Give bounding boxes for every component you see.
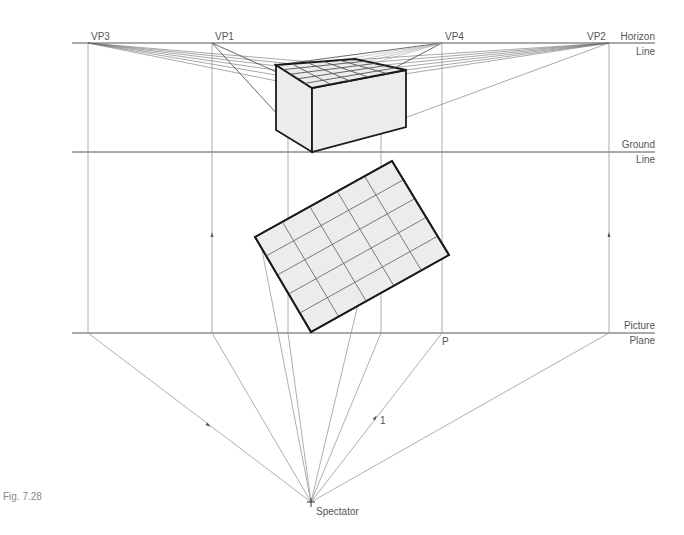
perspective-diagram: VP3 VP1 VP4 VP2 Horizon Line Ground Line…	[0, 0, 684, 535]
plan-view-rectangle	[255, 161, 449, 332]
marker-1-label: 1	[380, 415, 386, 426]
ground-line-label-2: Line	[636, 154, 655, 165]
sight-line	[311, 333, 609, 502]
perspective-box	[276, 59, 406, 152]
vp2-label: VP2	[587, 31, 606, 42]
sight-line	[212, 333, 311, 502]
vp4-label: VP4	[445, 31, 464, 42]
sight-line	[88, 333, 311, 502]
figure-caption: Fig. 7.28	[3, 491, 42, 502]
picture-plane-label: Picture	[624, 320, 656, 331]
sight-line	[288, 333, 311, 502]
horizon-line-label-2: Line	[636, 46, 655, 57]
point-p-label: P	[442, 336, 449, 347]
vp1-label: VP1	[215, 31, 234, 42]
sight-line	[311, 333, 381, 502]
spectator-label: Spectator	[316, 506, 359, 517]
vp3-label: VP3	[91, 31, 110, 42]
picture-plane-label-2: Plane	[629, 335, 655, 346]
arrow-marker-icon	[211, 232, 214, 237]
ground-line-label: Ground	[622, 139, 655, 150]
arrow-marker-icon	[608, 232, 611, 237]
sight-line	[311, 333, 442, 502]
horizon-line-label: Horizon	[621, 31, 655, 42]
